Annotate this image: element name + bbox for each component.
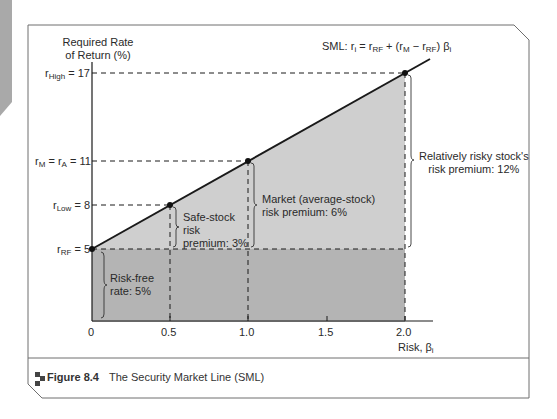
x-axis-title-sub: i [432, 346, 434, 355]
y-tick-r-market: rM = rA = 11 [35, 155, 91, 168]
y-tick-r-rf: rRF = 5 [57, 243, 90, 256]
safe-line2: risk [183, 224, 248, 237]
x-axis-title: Risk, βi [398, 341, 434, 354]
y-axis-title: Required Rate of Return (%) [58, 36, 138, 62]
risk-free-annotation: Risk-free rate: 5% [110, 272, 154, 298]
x-tick-1-5: 1.5 [318, 326, 333, 339]
figure-caption-text: The Security Market Line (SML) [109, 371, 264, 383]
figure-caption: Figure 8.4The Security Market Line (SML) [47, 371, 264, 383]
risk-free-line1: Risk-free [110, 272, 154, 285]
y-tick-r-high: rHigh = 17 [45, 67, 90, 80]
risky-annotation: Relatively risky stock's risk premium: 1… [419, 150, 529, 176]
figure-number: Figure 8.4 [47, 371, 99, 383]
x-axis-title-text: Risk, β [398, 341, 432, 353]
risky-line2: risk premium: 12% [419, 163, 529, 176]
x-tick-0-5: 0.5 [161, 326, 176, 339]
market-annotation: Market (average-stock) risk premium: 6% [262, 193, 375, 219]
risky-line1: Relatively risky stock's [419, 150, 529, 163]
x-tick-2-0: 2.0 [396, 326, 411, 339]
y-axis-title-line1: Required Rate [58, 36, 138, 49]
y-axis-title-line2: of Return (%) [58, 49, 138, 62]
x-tick-1-0: 1.0 [239, 326, 254, 339]
safe-stock-annotation: Safe-stock risk premium: 3% [183, 211, 248, 250]
safe-line3: premium: 3% [183, 237, 248, 250]
safe-line1: Safe-stock [183, 211, 248, 224]
y-tick-r-low: rLow = 8 [53, 199, 90, 212]
market-line2: risk premium: 6% [262, 206, 375, 219]
market-line1: Market (average-stock) [262, 193, 375, 206]
risk-free-line2: rate: 5% [110, 285, 154, 298]
x-tick-0: 0 [88, 326, 94, 339]
sml-equation: SML: ri = rRF + (rM − rRF) βi [322, 40, 451, 53]
